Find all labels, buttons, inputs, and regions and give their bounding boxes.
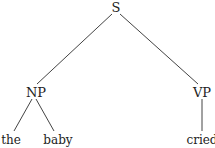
edge-np-baby xyxy=(36,99,54,131)
leaf-cried: cried xyxy=(186,134,215,146)
node-s: S xyxy=(112,1,121,14)
node-np: NP xyxy=(26,86,46,99)
node-vp: VP xyxy=(193,86,211,99)
edge-np-the xyxy=(14,99,32,131)
edge-s-vp xyxy=(120,14,198,84)
leaf-baby: baby xyxy=(43,134,72,146)
edge-s-np xyxy=(37,14,112,84)
leaf-the: the xyxy=(1,134,21,146)
tree-edges xyxy=(0,0,215,148)
